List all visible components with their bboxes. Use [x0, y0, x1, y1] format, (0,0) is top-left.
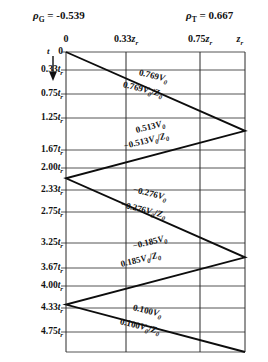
lattice-diagram: ρG = -0.539 ρT = 0.667 00.33zr0.75zrzr 0… — [0, 0, 268, 362]
